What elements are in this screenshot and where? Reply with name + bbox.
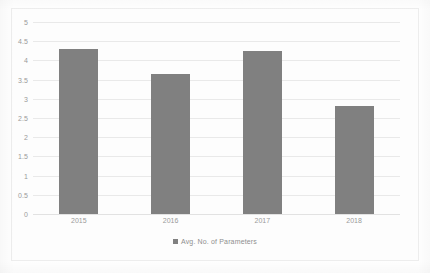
bars-group [33,22,400,214]
bar-2016 [151,74,190,214]
bar-chart-figure: 00.511.522.533.544.55 2015201620172018 A… [0,0,430,273]
y-axis-tick-label: 5 [24,19,28,26]
chart-legend: Avg. No. of Parameters [0,238,430,245]
legend-color-swatch [173,239,178,244]
x-axis-tick-label: 2018 [346,217,362,224]
y-axis-tick-label: 0 [24,211,28,218]
y-axis-tick-label: 3 [24,95,28,102]
legend-label: Avg. No. of Parameters [181,238,257,245]
y-axis-tick-label: 1 [24,172,28,179]
plot-area: 00.511.522.533.544.55 [33,22,400,214]
y-axis-tick-label: 0.5 [18,191,28,198]
x-axis-tick-label: 2016 [163,217,179,224]
y-axis-tick-label: 4 [24,57,28,64]
x-axis-tick-labels: 2015201620172018 [33,217,400,231]
y-axis-tick-label: 1.5 [18,153,28,160]
x-axis-tick-label: 2017 [254,217,270,224]
y-axis-tick-label: 4.5 [18,38,28,45]
y-axis-tick-label: 3.5 [18,76,28,83]
y-axis-tick-label: 2 [24,134,28,141]
y-axis-tick-label: 2.5 [18,115,28,122]
bar-2018 [335,106,374,214]
bar-2015 [59,49,98,214]
gridline: 0 [33,214,400,215]
x-axis-tick-label: 2015 [71,217,87,224]
bar-2017 [243,51,282,214]
